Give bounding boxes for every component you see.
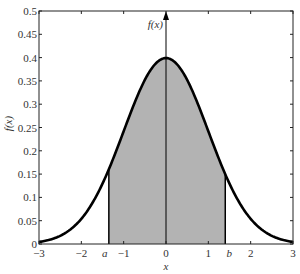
x-tick-label: −1 <box>118 247 130 259</box>
y-tick-label: 0.45 <box>18 28 38 40</box>
y-tick-label: 0.2 <box>23 145 37 157</box>
y-tick-label: 0.5 <box>23 5 37 17</box>
y-tick-label: 0.4 <box>23 52 37 64</box>
x-tick-label: 3 <box>290 247 296 259</box>
shaded-area <box>109 58 225 244</box>
y-tick-label: 0.25 <box>18 122 38 134</box>
axis-annotation: f(x) <box>148 18 164 31</box>
y-tick-label: 0.05 <box>18 215 38 227</box>
x-tick-label: −2 <box>75 247 87 259</box>
chart-canvas: −3−2−1012300.050.10.150.20.250.30.350.40… <box>0 0 300 274</box>
y-tick-label: 0.35 <box>18 75 38 87</box>
y-tick-label: 0.3 <box>23 98 37 110</box>
marker-label-b: b <box>227 247 233 259</box>
marker-label-a: a <box>102 247 108 259</box>
y-tick-label: 0.15 <box>18 168 38 180</box>
x-axis-label: x <box>163 260 169 272</box>
y-axis-label: f(x) <box>2 116 15 132</box>
y-tick-label: 0.1 <box>23 191 37 203</box>
y-tick-label: 0 <box>32 238 38 250</box>
x-tick-label: 0 <box>163 247 169 259</box>
x-tick-label: 2 <box>248 247 254 259</box>
x-tick-label: 1 <box>206 247 212 259</box>
